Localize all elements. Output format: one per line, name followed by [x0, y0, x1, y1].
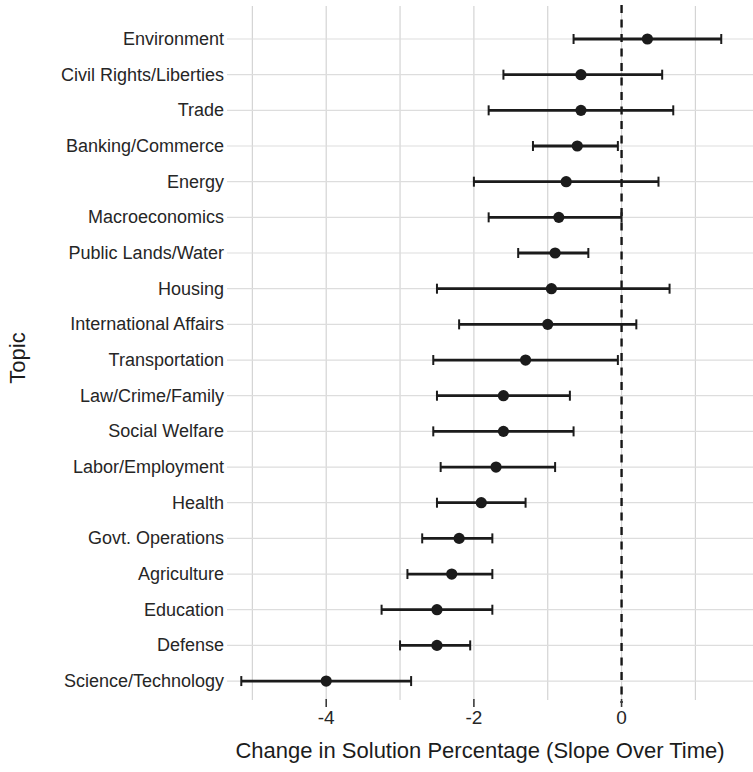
row-transportation — [433, 354, 618, 365]
row-law-crime-family — [437, 390, 570, 401]
topic-label: Trade — [178, 100, 224, 120]
row-banking-commerce — [533, 140, 618, 151]
row-education — [382, 604, 493, 615]
x-axis-title: Change in Solution Percentage (Slope Ove… — [235, 738, 724, 763]
row-civil-rights-liberties — [503, 69, 662, 80]
row-agriculture — [407, 568, 492, 579]
row-labor-employment — [441, 461, 555, 472]
topic-label: Education — [144, 600, 224, 620]
topic-label: Social Welfare — [108, 421, 224, 441]
point-estimate-dot — [550, 247, 561, 258]
x-tick-label: 0 — [616, 707, 627, 728]
point-estimate-dot — [431, 604, 442, 615]
topic-label: Govt. Operations — [88, 528, 224, 548]
topic-label: Housing — [158, 279, 224, 299]
y-axis-title: Topic — [5, 332, 30, 383]
topic-label: Public Lands/Water — [69, 243, 224, 263]
row-social-welfare — [433, 426, 573, 437]
point-estimate-dot — [321, 675, 332, 686]
row-govt-operations — [422, 533, 492, 544]
point-estimate-dot — [561, 176, 572, 187]
topic-label: Civil Rights/Liberties — [61, 65, 224, 85]
topic-label: Agriculture — [138, 564, 224, 584]
row-environment — [574, 33, 722, 44]
point-estimate-dot — [546, 283, 557, 294]
topic-label: International Affairs — [70, 314, 224, 334]
row-trade — [489, 105, 674, 116]
topic-label: Law/Crime/Family — [80, 386, 224, 406]
topic-label: Macroeconomics — [88, 207, 224, 227]
x-axis: -4-20 — [318, 699, 627, 728]
point-estimate-dot — [572, 140, 583, 151]
chart-canvas: EnvironmentCivil Rights/LibertiesTradeBa… — [0, 0, 753, 772]
row-science-technology — [241, 675, 411, 686]
topic-label: Health — [172, 493, 224, 513]
row-international-affairs — [459, 319, 636, 330]
row-defense — [400, 640, 470, 651]
point-estimate-dot — [446, 568, 457, 579]
point-estimate-dot — [542, 319, 553, 330]
point-estimate-dot — [476, 497, 487, 508]
row-public-lands-water — [518, 247, 588, 258]
row-macroeconomics — [489, 212, 622, 223]
topic-label: Energy — [167, 172, 224, 192]
topic-label: Transportation — [109, 350, 224, 370]
row-energy — [474, 176, 659, 187]
point-estimate-dot — [575, 69, 586, 80]
point-estimate-dot — [498, 426, 509, 437]
topic-label: Defense — [157, 635, 224, 655]
topic-labels: EnvironmentCivil Rights/LibertiesTradeBa… — [61, 29, 224, 691]
point-estimate-dot — [642, 33, 653, 44]
point-estimate-dot — [490, 461, 501, 472]
row-housing — [437, 283, 670, 294]
point-estimate-dot — [553, 212, 564, 223]
x-tick-label: -4 — [318, 707, 335, 728]
point-estimate-dot — [431, 640, 442, 651]
point-estimate-dot — [575, 105, 586, 116]
topic-label: Labor/Employment — [73, 457, 224, 477]
x-tick-label: -2 — [465, 707, 482, 728]
point-estimate-dot — [454, 533, 465, 544]
row-health — [437, 497, 526, 508]
topic-label: Environment — [123, 29, 224, 49]
coefficient-plot-figure: EnvironmentCivil Rights/LibertiesTradeBa… — [0, 0, 753, 772]
topic-label: Science/Technology — [64, 671, 224, 691]
topic-label: Banking/Commerce — [66, 136, 224, 156]
point-estimate-dot — [498, 390, 509, 401]
point-estimate-dot — [520, 354, 531, 365]
